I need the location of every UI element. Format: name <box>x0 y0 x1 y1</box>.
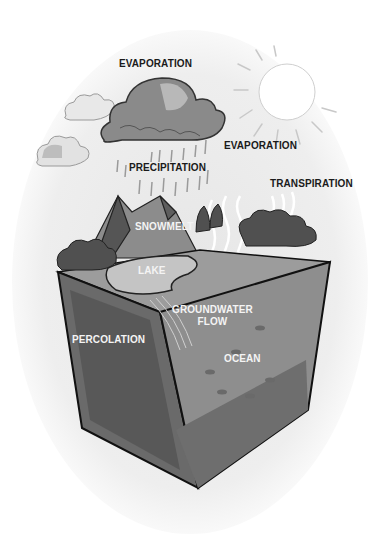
label-snowmelt: SNOWMELT <box>135 221 193 232</box>
water-cycle-illustration <box>0 0 382 535</box>
label-groundwater-line2: FLOW <box>172 316 253 328</box>
label-evaporation-right: EVAPORATION <box>224 140 297 151</box>
label-groundwater-line1: GROUNDWATER <box>172 304 253 316</box>
label-percolation: PERCOLATION <box>72 334 145 345</box>
water-cycle-diagram: EVAPORATION EVAPORATION PRECIPITATION TR… <box>0 0 382 535</box>
label-groundwater-flow: GROUNDWATER FLOW <box>172 304 253 328</box>
label-precipitation: PRECIPITATION <box>129 162 206 173</box>
label-transpiration: TRANSPIRATION <box>270 178 353 189</box>
label-evaporation-top: EVAPORATION <box>119 58 192 69</box>
label-lake: LAKE <box>138 265 166 276</box>
label-ocean: OCEAN <box>224 353 261 364</box>
